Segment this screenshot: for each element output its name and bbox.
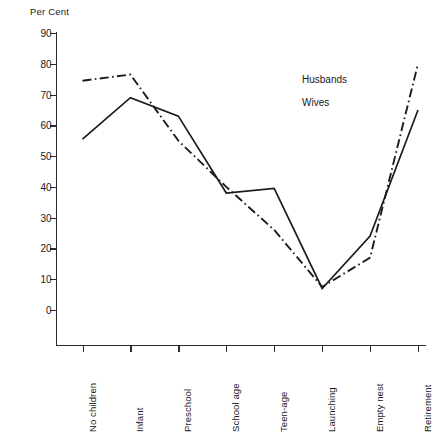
- series-layer: [0, 0, 447, 436]
- series-line-wives: [83, 64, 419, 287]
- legend-label-husbands: Husbands: [302, 74, 347, 85]
- chart-figure: Per Cent 0102030405060708090 No children…: [0, 0, 447, 436]
- legend-label-wives: Wives: [302, 97, 329, 108]
